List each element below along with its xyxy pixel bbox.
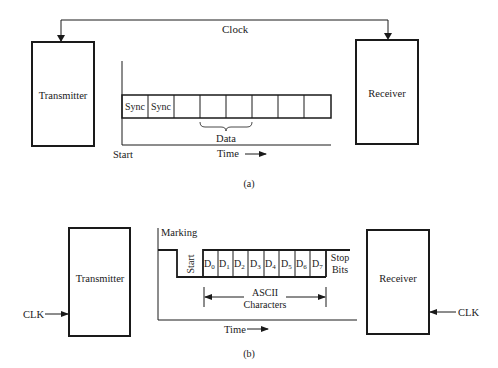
transmitter-label-b: Transmitter xyxy=(76,273,125,284)
caption-a: (a) xyxy=(243,178,254,190)
data-bit-d4: D4 xyxy=(265,258,276,271)
ascii-label-line1: ASCII xyxy=(252,287,278,298)
caption-b: (b) xyxy=(243,348,255,360)
clock-arrow-transmitter-icon xyxy=(57,35,65,42)
clock-label: Clock xyxy=(222,23,249,35)
stop-label-line2: Bits xyxy=(332,264,348,275)
diagram-canvas: Clock Transmitter Receiver Sync Sync Dat… xyxy=(0,0,498,368)
time-label-a: Time xyxy=(217,148,239,159)
transmitter-label-a: Transmitter xyxy=(39,90,88,101)
data-label: Data xyxy=(216,133,236,144)
time-label-b: Time xyxy=(224,324,246,335)
clk-right-label: CLK xyxy=(458,307,479,318)
data-bit-d1: D1 xyxy=(219,258,230,271)
data-bit-d2: D2 xyxy=(234,258,245,271)
data-bit-d5: D5 xyxy=(281,258,292,271)
data-bit-d7: D7 xyxy=(312,258,323,271)
figure-b: Transmitter CLK Receiver CLK Marking Sta… xyxy=(23,227,479,360)
ascii-label-line2: Characters xyxy=(244,299,287,310)
data-bit-d3: D3 xyxy=(250,258,261,271)
stop-label-line1: Stop xyxy=(331,252,349,263)
figure-a: Clock Transmitter Receiver Sync Sync Dat… xyxy=(32,20,418,190)
data-bit-d6: D6 xyxy=(296,258,307,271)
frame-cell-sync-1: Sync xyxy=(125,101,146,112)
frame-cell-sync-2: Sync xyxy=(151,101,172,112)
clock-arrow-receiver-icon xyxy=(384,33,392,40)
marking-label: Marking xyxy=(161,227,198,238)
start-label-a: Start xyxy=(113,149,133,160)
receiver-label-b: Receiver xyxy=(379,273,417,284)
data-brace xyxy=(200,122,252,131)
start-bit-label: Start xyxy=(185,254,196,273)
clk-left-label: CLK xyxy=(23,309,44,320)
data-bit-d0: D0 xyxy=(204,258,215,271)
receiver-label-a: Receiver xyxy=(368,88,406,99)
